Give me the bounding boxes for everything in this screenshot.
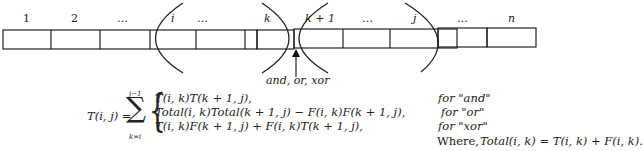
- cell-label-k: k: [264, 12, 271, 25]
- cell-label-ellipsis-4: …: [457, 12, 468, 25]
- where-expr: Total(i, k) = T(i, k) + F(i, k).: [480, 134, 643, 148]
- sum-symbol: ∑: [126, 94, 146, 122]
- cell-labels: 1 2 … i … k k + 1 … j … n: [23, 12, 515, 25]
- formula-lhs: T(i, j) =: [87, 109, 132, 123]
- cell-label-j: j: [410, 12, 417, 25]
- cell-label-n: n: [508, 12, 515, 25]
- cell-label-ellipsis-2: …: [197, 12, 208, 25]
- case-xor-condition: for "xor": [438, 119, 488, 133]
- sum-lower-limit: k=i: [129, 133, 141, 141]
- case-and-condition: for "and": [438, 91, 491, 105]
- cell-label-ellipsis-1: …: [117, 12, 128, 25]
- operator-label: and, or, xor: [266, 74, 330, 87]
- case-and-expr: T(i, k)T(k + 1, j),: [155, 91, 252, 105]
- array-cells-right: [257, 29, 457, 49]
- split-arrow: [292, 49, 300, 77]
- case-xor-expr: T(i, k)F(k + 1, j) + F(i, k)T(k + 1, j),: [155, 119, 363, 133]
- cell-label-ellipsis-3: …: [362, 12, 373, 25]
- cell-label-2: 2: [71, 12, 78, 25]
- array-cells: [3, 30, 257, 49]
- cell-label-1: 1: [23, 12, 30, 25]
- cell-label-k-plus-1: k + 1: [305, 12, 335, 25]
- cell-label-i: i: [171, 12, 175, 25]
- where-label: Where,: [437, 134, 479, 148]
- case-or-condition: for "or": [441, 105, 484, 119]
- array-cells-tail: [438, 28, 536, 47]
- case-or-expr: Total(i, k)Total(k + 1, j) − F(i, k)F(k …: [155, 105, 405, 119]
